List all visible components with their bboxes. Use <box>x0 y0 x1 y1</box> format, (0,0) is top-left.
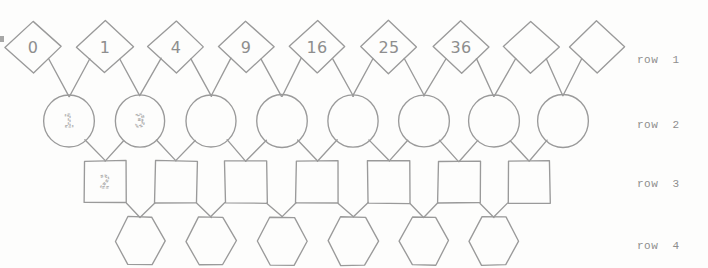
node-hexagon-row4-4[interactable] <box>399 217 448 265</box>
edge-line <box>480 204 494 218</box>
edge-line <box>476 59 493 97</box>
edge-line <box>494 59 515 97</box>
edge-line <box>459 140 478 161</box>
row-label-1: row 1 <box>637 54 680 66</box>
node-label-row1-4: 16 <box>307 38 328 57</box>
edge-line <box>191 59 212 96</box>
node-label-row2-1: 3 <box>135 111 146 131</box>
node-square-row3-5[interactable] <box>438 161 481 203</box>
edge-line <box>267 203 283 216</box>
edge-line <box>140 58 161 95</box>
node-hexagon-row4-2[interactable] <box>257 217 307 265</box>
node-hexagon-row4-5[interactable] <box>469 217 519 266</box>
edge-line <box>49 58 70 96</box>
row-label-3: row 3 <box>637 178 680 190</box>
edge-line <box>105 141 123 161</box>
edge-line <box>156 140 176 161</box>
edge-line <box>85 140 105 161</box>
edge-line <box>197 203 212 217</box>
node-circle-row2-5[interactable] <box>399 95 450 147</box>
edge-line <box>510 141 529 161</box>
edge-line <box>211 58 231 96</box>
edge-line <box>333 59 354 96</box>
edge-line <box>211 203 225 217</box>
edge-line <box>494 203 507 216</box>
edges-layer <box>49 58 582 217</box>
edge-line <box>127 203 140 217</box>
edge-line <box>529 140 547 161</box>
node-label-row1-6: 36 <box>451 38 472 57</box>
edge-line <box>424 203 438 217</box>
node-label-row3-0: 2 <box>100 172 111 192</box>
edge-line <box>298 140 318 161</box>
row-label-4: row 4 <box>637 240 680 252</box>
edge-line <box>546 59 562 96</box>
edge-line <box>353 59 373 97</box>
node-hexagon-row4-1[interactable] <box>186 217 236 265</box>
edge-line <box>282 203 296 217</box>
row-label-2: row 2 <box>637 119 680 131</box>
node-hexagon-row4-3[interactable] <box>328 217 378 266</box>
node-square-row3-2[interactable] <box>224 161 267 204</box>
diagram-canvas: 0149162536132 row 1 row 2 row 3 row 4 <box>0 0 708 268</box>
edge-line <box>439 140 458 161</box>
node-label-row1-5: 25 <box>379 38 400 57</box>
node-circle-row2-4[interactable] <box>328 95 378 147</box>
edge-line <box>120 59 140 95</box>
edge-line <box>261 59 281 96</box>
edge-line <box>338 204 353 217</box>
node-label-row1-1: 1 <box>100 38 110 57</box>
edge-line <box>176 140 196 160</box>
node-square-row3-1[interactable] <box>155 160 198 203</box>
edge-line <box>227 140 246 162</box>
edge-line <box>424 59 446 96</box>
node-circle-row2-2[interactable] <box>186 95 236 147</box>
edge-line <box>282 58 301 96</box>
node-square-row3-6[interactable] <box>508 161 550 204</box>
edge-line <box>317 140 337 161</box>
node-square-row3-3[interactable] <box>296 161 339 203</box>
node-circle-row2-3[interactable] <box>257 95 308 148</box>
node-hexagon-row4-0[interactable] <box>115 216 165 264</box>
node-label-row1-0: 0 <box>28 38 38 57</box>
edge-line <box>563 59 582 96</box>
edge-line <box>369 140 390 161</box>
edge-line <box>404 58 424 95</box>
edge-line <box>353 203 368 217</box>
node-label-row1-3: 9 <box>241 38 251 57</box>
node-label-row1-2: 4 <box>171 38 181 57</box>
lattice-diagram: 0149162536132 <box>0 0 708 268</box>
node-square-row3-4[interactable] <box>367 161 410 204</box>
edge-line <box>410 203 424 217</box>
edge-line <box>140 203 154 217</box>
edge-line <box>246 140 267 161</box>
node-circle-row2-7[interactable] <box>538 95 589 148</box>
edge-line <box>389 140 407 161</box>
node-circle-row2-6[interactable] <box>469 95 520 147</box>
scan-artifact-speck <box>0 36 4 42</box>
shapes-layer <box>5 20 625 265</box>
node-label-row2-0: 1 <box>64 111 75 131</box>
edge-line <box>69 59 89 97</box>
